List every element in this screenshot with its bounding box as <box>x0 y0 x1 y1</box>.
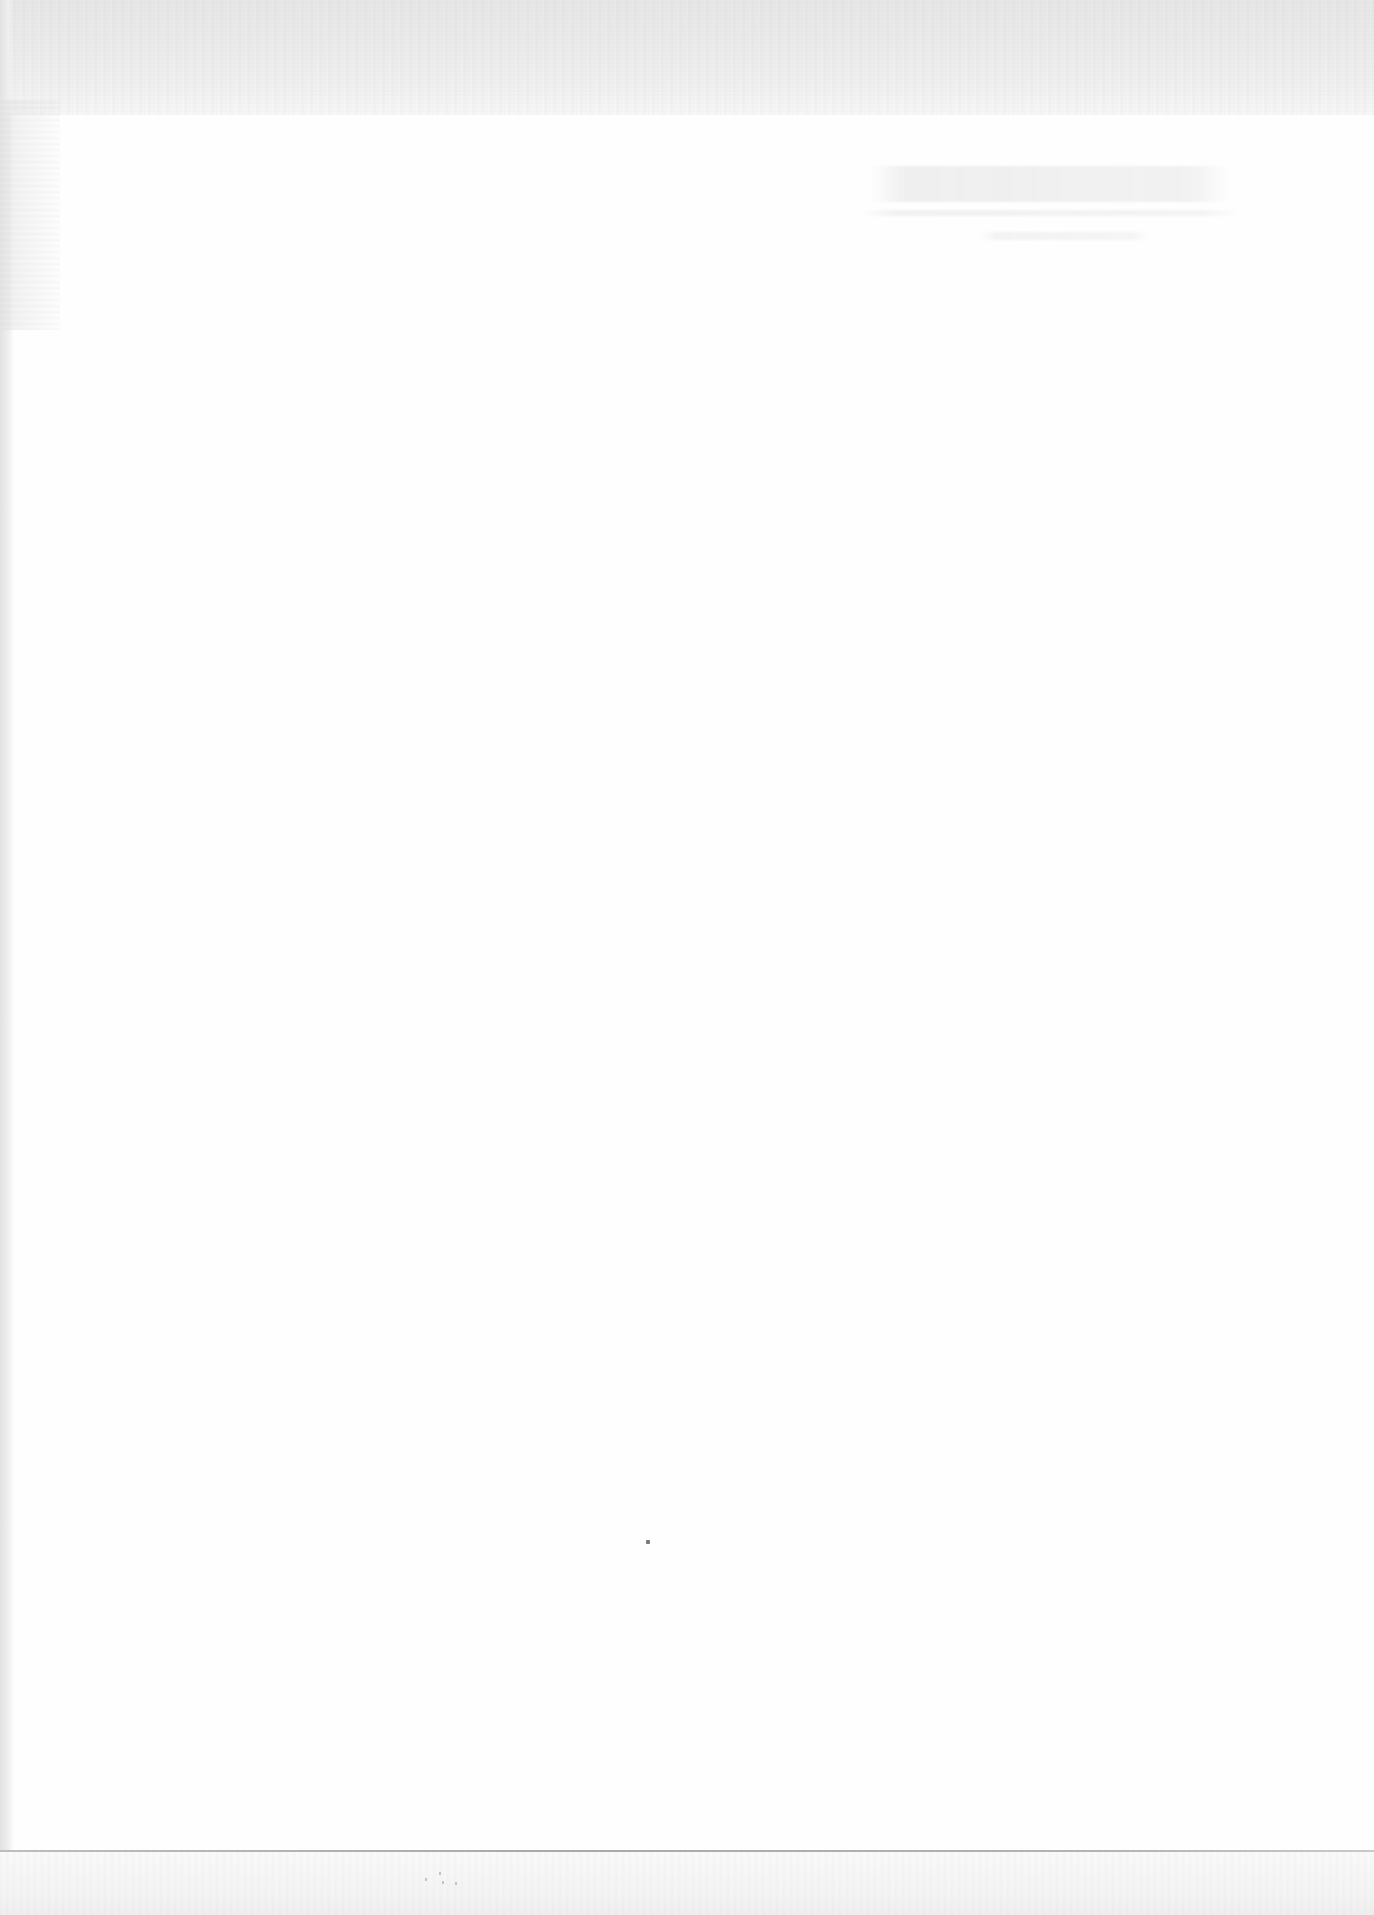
faded-title-block <box>860 160 1240 250</box>
faded-title-text <box>870 166 1230 202</box>
scan-band-bottom <box>0 1852 1374 1915</box>
scan-noise-band-top <box>0 0 1374 115</box>
scan-specks-bottom <box>425 1872 465 1888</box>
scan-speck <box>646 1540 650 1544</box>
scanned-page <box>0 0 1374 1915</box>
faded-subline-text <box>980 232 1150 240</box>
scan-noise-left <box>0 100 60 330</box>
faded-subtitle-text <box>860 210 1240 216</box>
